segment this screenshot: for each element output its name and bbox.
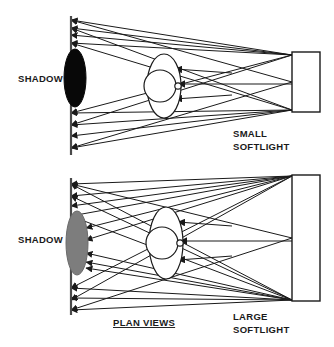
shadow-label-small: SHADOW bbox=[18, 73, 63, 84]
plan-views-diagram: SHADOW SMALL SOFTLIGHT bbox=[0, 0, 334, 347]
shadow-label-large: SHADOW bbox=[18, 234, 63, 245]
panel-small-softlight: SHADOW SMALL SOFTLIGHT bbox=[18, 16, 320, 155]
softlight-label-small-line1: SMALL bbox=[233, 128, 267, 139]
shadow-shape-small bbox=[64, 49, 86, 107]
diagram-canvas: SHADOW SMALL SOFTLIGHT bbox=[0, 0, 334, 347]
diagram-title: PLAN VIEWS bbox=[113, 317, 175, 328]
shadow-shape-large bbox=[66, 211, 88, 275]
softlight-label-small-line2: SOFTLIGHT bbox=[233, 141, 290, 152]
softlight-label-large-line2: SOFTLIGHT bbox=[233, 324, 290, 335]
softlight-label-large-line1: LARGE bbox=[233, 311, 268, 322]
softlight-source-large bbox=[292, 175, 320, 301]
panel-large-softlight: SHADOW LARGE SOFTLIGHT bbox=[18, 175, 320, 335]
subject-object-small bbox=[144, 54, 181, 118]
softlight-source-small bbox=[292, 52, 320, 112]
